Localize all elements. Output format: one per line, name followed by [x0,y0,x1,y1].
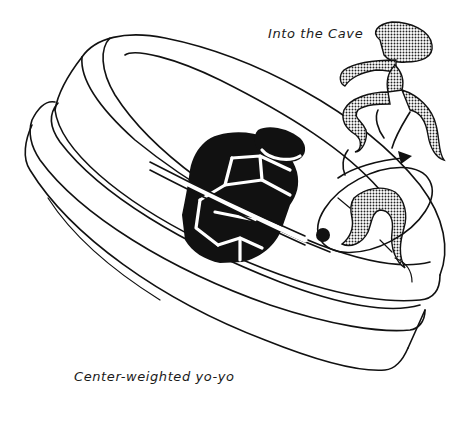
yoyo-illustration [0,0,476,423]
caption-into-the-cave: Into the Cave [268,26,363,41]
caption-center-weighted-yoyo: Center-weighted yo-yo [74,369,235,384]
